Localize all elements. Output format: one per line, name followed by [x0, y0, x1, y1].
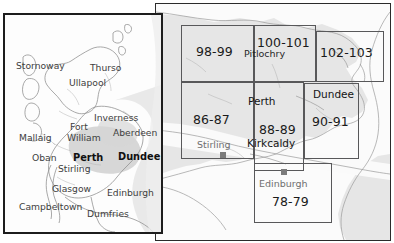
inset-dot-dumfries — [92, 219, 96, 223]
city-label-stirling: Stirling — [197, 139, 231, 150]
inset-label-stirling: Stirling — [58, 163, 91, 174]
inset-label-perth: Perth — [73, 152, 103, 163]
index-label-86-87[interactable]: 86-87 — [193, 112, 230, 127]
inset-label-campbeltown: Campbeltown — [19, 201, 82, 212]
inset-label-ullapool: Ullapool — [69, 77, 106, 88]
city-dot-perth — [272, 109, 279, 116]
map-index-screenshot: 98-99 100-101 102-103 86-87 88-89 90-91 … — [0, 0, 394, 243]
inset-dot-dundee — [111, 156, 116, 161]
inset-label-glasgow: Glasgow — [52, 183, 91, 194]
inset-dot-edinburgh — [110, 181, 114, 185]
city-dot-pitlochry — [266, 62, 273, 69]
city-label-pitlochry: Pitlochry — [244, 48, 285, 59]
city-dot-dundee — [303, 97, 310, 104]
index-label-98-99[interactable]: 98-99 — [196, 44, 233, 59]
city-dot-stirling — [220, 152, 226, 158]
city-dot-edinburgh — [281, 169, 287, 175]
index-label-88-89[interactable]: 88-89 — [259, 122, 296, 137]
inset-label-aberdeen: Aberdeen — [113, 127, 157, 138]
inset-label-dumfries: Dumfries — [87, 208, 129, 219]
index-label-78-79[interactable]: 78-79 — [272, 194, 309, 209]
city-label-kirkcaldy: Kirkcaldy — [247, 137, 295, 149]
inset-label-thurso: Thurso — [90, 62, 121, 73]
city-label-perth: Perth — [248, 95, 276, 107]
city-label-dundee: Dundee — [313, 88, 354, 100]
city-dot-kirkcaldy — [284, 151, 292, 159]
inset-label-william: William — [67, 132, 101, 143]
inset-dot-inverness — [89, 109, 93, 113]
inset-label-fort: Fort — [70, 121, 88, 132]
city-label-edinburgh: Edinburgh — [259, 178, 308, 189]
inset-label-stornoway: Stornoway — [16, 60, 65, 71]
index-grid-panel[interactable]: 98-99 100-101 102-103 86-87 88-89 90-91 … — [155, 3, 391, 241]
inset-label-mallaig: Mallaig — [19, 132, 52, 143]
inset-dot-ullapool — [65, 92, 69, 96]
inset-label-oban: Oban — [32, 152, 57, 163]
page-background-notch — [0, 0, 152, 12]
index-label-90-91[interactable]: 90-91 — [312, 114, 349, 129]
inset-dot-glasgow — [78, 177, 82, 181]
inset-dot-stornoway — [42, 71, 46, 75]
index-label-102-103[interactable]: 102-103 — [320, 45, 373, 60]
inset-label-edinburgh: Edinburgh — [107, 187, 154, 198]
index-cell-78-79[interactable] — [254, 163, 332, 223]
inset-label-inverness: Inverness — [94, 112, 138, 123]
inset-label-dundee: Dundee — [118, 151, 160, 162]
locator-inset-panel[interactable]: Stornoway Thurso Ullapool Inverness Fort… — [3, 13, 163, 234]
